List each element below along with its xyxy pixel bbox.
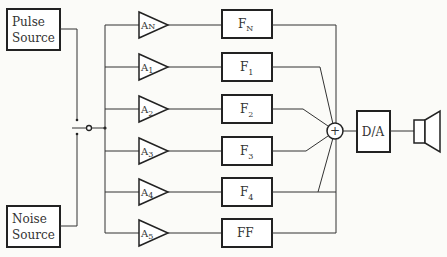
distribution-bus: [105, 25, 139, 233]
channel-row-4: A4 F4: [139, 178, 272, 206]
summing-wires: [272, 25, 336, 233]
svg-text:FF: FF: [237, 226, 254, 240]
noise-source-label-1: Noise: [12, 212, 47, 226]
channel-row-5: A5 FF: [139, 219, 272, 247]
noise-source-block: Noise Source: [7, 206, 60, 247]
channel-row-n: AN FN: [139, 10, 272, 38]
pulse-source-block: Pulse Source: [7, 9, 60, 50]
pulse-source-label-1: Pulse: [12, 15, 45, 29]
noise-source-label-2: Source: [12, 228, 55, 242]
switch-pivot-icon: [87, 126, 92, 131]
channel-row-1: A1 F1: [139, 53, 272, 81]
channel-row-3: A3 F3: [139, 137, 272, 165]
source-switch: [60, 29, 107, 226]
summing-junction: +: [327, 123, 343, 139]
channel-row-2: A2 F2: [139, 95, 272, 123]
pulse-source-label-2: Source: [12, 31, 55, 45]
svg-text:AN: AN: [140, 20, 155, 31]
da-converter-block: D/A: [357, 111, 390, 152]
da-converter-label: D/A: [362, 125, 385, 139]
speaker-icon: [414, 111, 440, 152]
plus-icon: +: [330, 124, 340, 138]
synthesizer-block-diagram: Pulse Source Noise Source AN FN A1 F1: [0, 0, 447, 257]
